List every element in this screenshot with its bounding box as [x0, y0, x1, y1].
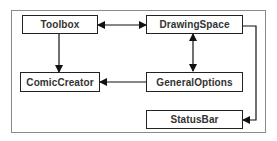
edge-drawingspace-statusbar — [243, 26, 256, 120]
node-generaloptions: GeneralOptions — [146, 72, 243, 92]
node-label: StatusBar — [170, 114, 218, 125]
node-label: GeneralOptions — [156, 77, 232, 88]
node-comiccreator: ComicCreator — [20, 72, 100, 92]
node-label: Toolbox — [41, 19, 80, 30]
node-toolbox: Toolbox — [22, 15, 98, 34]
node-label: ComicCreator — [26, 77, 93, 88]
node-label: DrawingSpace — [159, 19, 229, 30]
node-statusbar: StatusBar — [146, 110, 243, 129]
node-drawingspace: DrawingSpace — [146, 15, 243, 34]
